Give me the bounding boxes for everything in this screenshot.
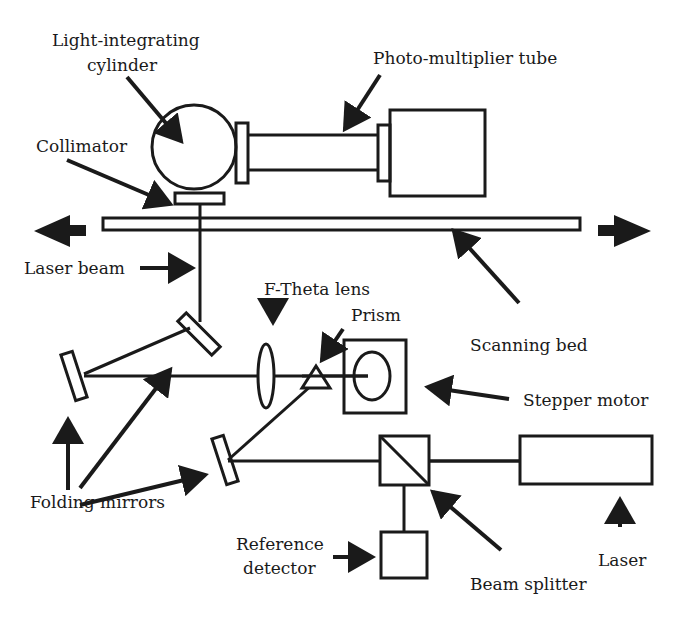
label-scanning-bed: Scanning bed	[470, 335, 588, 355]
cylinder-flange	[236, 123, 248, 183]
folding-mirror-left	[61, 351, 87, 400]
beam-splitter	[380, 436, 429, 485]
arrow-left-icon	[34, 215, 86, 247]
label-reference: Reference	[236, 534, 324, 554]
label-laser-beam: Laser beam	[24, 258, 125, 278]
scanning-bed	[103, 218, 580, 230]
laser-scanner-diagram: Light-integrating cylinder Photo-multipl…	[0, 0, 681, 618]
label-detector: detector	[243, 558, 316, 578]
light-integrating-cylinder	[152, 105, 236, 189]
label-photo-multiplier-tube: Photo-multiplier tube	[373, 48, 557, 68]
label-prism: Prism	[351, 305, 401, 325]
label-cylinder: cylinder	[87, 55, 158, 75]
label-folding-mirrors: Folding mirrors	[30, 492, 165, 512]
label-laser: Laser	[598, 550, 647, 570]
reference-detector	[381, 532, 427, 578]
f-theta-lens	[258, 344, 274, 408]
label-f-theta-lens: F-Theta lens	[264, 279, 370, 299]
laser	[520, 436, 652, 484]
label-stepper-motor: Stepper motor	[523, 390, 649, 410]
arrow-right-icon	[598, 215, 651, 247]
label-beam-splitter: Beam splitter	[470, 574, 587, 594]
stepper-motor	[344, 340, 406, 413]
photo-multiplier-tube	[248, 110, 485, 196]
label-collimator: Collimator	[36, 136, 128, 156]
collimator	[175, 193, 224, 204]
label-light-integrating: Light-integrating	[52, 30, 200, 50]
